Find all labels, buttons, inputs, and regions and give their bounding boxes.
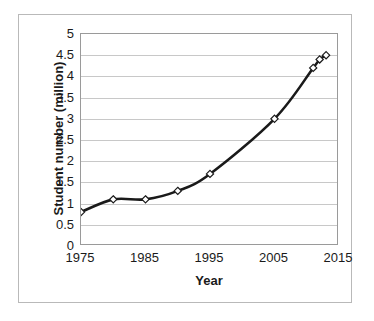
data-series-layer bbox=[81, 34, 339, 246]
y-tick-label: 1 bbox=[22, 197, 74, 210]
y-tick-label: 1.5 bbox=[22, 175, 74, 188]
y-tick-label: 4 bbox=[22, 69, 74, 82]
y-tick-label: 0.5 bbox=[22, 218, 74, 231]
x-tick-label: 1975 bbox=[50, 251, 110, 264]
y-tick-label: 4.5 bbox=[22, 48, 74, 61]
plot-area bbox=[80, 33, 338, 245]
chart-figure: 00.511.522.533.544.55 197519851995200520… bbox=[18, 14, 352, 303]
y-tick-label: 3.5 bbox=[22, 91, 74, 104]
x-tick-label: 2015 bbox=[308, 251, 368, 264]
series-line bbox=[81, 55, 326, 212]
y-axis-title: Student number (million) bbox=[51, 39, 66, 239]
x-tick-label: 2005 bbox=[244, 251, 304, 264]
y-tick-label: 2.5 bbox=[22, 133, 74, 146]
x-tick-label: 1995 bbox=[179, 251, 239, 264]
x-tick-label: 1985 bbox=[115, 251, 175, 264]
y-tick-label: 3 bbox=[22, 112, 74, 125]
data-point-marker bbox=[110, 196, 117, 203]
y-tick-label: 5 bbox=[22, 27, 74, 40]
y-tick-label: 2 bbox=[22, 154, 74, 167]
x-axis-title: Year bbox=[80, 273, 338, 288]
series-markers bbox=[81, 52, 330, 216]
data-point-marker bbox=[142, 196, 149, 203]
data-point-marker bbox=[174, 187, 181, 194]
